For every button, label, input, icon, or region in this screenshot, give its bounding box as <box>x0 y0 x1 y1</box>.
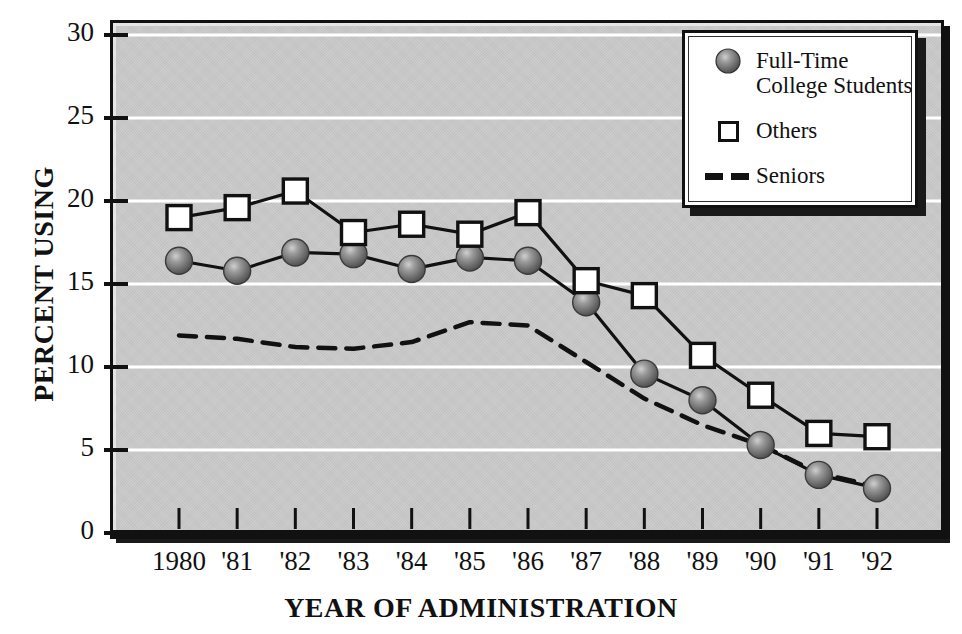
y-tick-label: 5 <box>48 432 94 463</box>
legend-label: Full-Time College Students <box>756 48 913 98</box>
sphere-marker-icon <box>700 48 756 74</box>
y-axis-ticks <box>104 35 128 533</box>
legend-item-others[interactable]: Others <box>700 118 817 144</box>
dashed-line-icon <box>700 163 756 189</box>
legend-item-full-time-college-students[interactable]: Full-Time College Students <box>700 48 913 98</box>
legend-item-seniors[interactable]: Seniors <box>700 163 825 189</box>
open-square-marker-icon <box>700 118 756 144</box>
legend-label: Others <box>756 118 817 143</box>
chart-figure: 051015202530 1980'81'82'83'84'85'86'87'8… <box>0 0 962 634</box>
y-axis-title: PERCENT USING <box>28 154 60 414</box>
series-markers <box>166 179 891 502</box>
legend-label: Seniors <box>756 163 825 188</box>
x-axis-title: YEAR OF ADMINISTRATION <box>0 592 962 624</box>
x-tick-label: '92 <box>837 546 917 577</box>
x-axis-ticks <box>179 508 877 529</box>
y-tick-label: 25 <box>48 100 94 131</box>
y-tick-label: 30 <box>48 17 94 48</box>
y-tick-label: 0 <box>48 515 94 546</box>
